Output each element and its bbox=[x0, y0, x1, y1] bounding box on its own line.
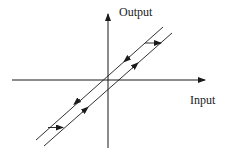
ascending-arrow-upper bbox=[132, 63, 138, 68]
input-axis-label: Input bbox=[190, 93, 216, 107]
ascending-arrow-lower bbox=[82, 107, 88, 112]
descending-arrow-upper bbox=[124, 57, 130, 62]
descending-branch-line bbox=[36, 27, 163, 140]
hysteresis-diagram: Output Input bbox=[0, 0, 227, 156]
output-axis-label: Output bbox=[119, 5, 153, 19]
